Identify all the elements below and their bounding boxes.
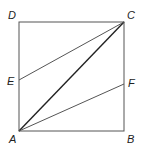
label-a: A bbox=[8, 133, 16, 145]
label-f: F bbox=[128, 77, 136, 89]
segment-af bbox=[19, 84, 124, 131]
label-d: D bbox=[8, 9, 16, 21]
label-e: E bbox=[7, 75, 15, 87]
geometry-diagram: D C E F A B bbox=[0, 0, 144, 149]
diagonal-ac bbox=[19, 22, 124, 131]
label-c: C bbox=[127, 9, 135, 21]
segment-ec bbox=[19, 22, 124, 80]
label-b: B bbox=[127, 133, 134, 145]
